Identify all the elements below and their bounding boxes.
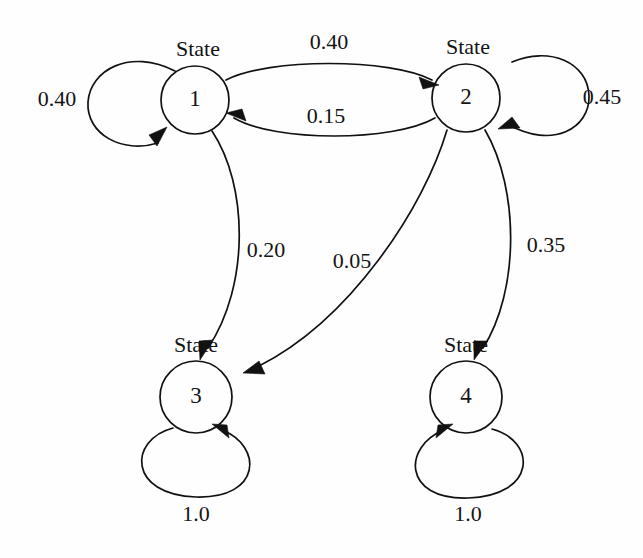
node-state-1[interactable]: State 1	[161, 36, 229, 134]
node-state-4[interactable]: State 4	[430, 332, 502, 433]
edge-weight-2-3: 0.05	[333, 248, 372, 273]
edge-state2-to-state4-path	[483, 130, 511, 348]
edge-self-loop-state-2: 0.45	[498, 56, 621, 136]
node-state-4-caption: State	[444, 332, 488, 357]
node-state-2-caption: State	[446, 34, 490, 59]
edge-state1-to-state3-path	[208, 131, 239, 348]
edge-self-loop-state-3-path	[142, 428, 250, 497]
edge-state1-to-state2-path	[226, 64, 432, 81]
node-state-2[interactable]: State 2	[432, 34, 500, 132]
edge-state1-to-state3: 0.20	[199, 131, 285, 360]
node-state-3-caption: State	[174, 332, 218, 357]
edge-self-loop-state-2-path	[507, 56, 589, 136]
edge-weight-1-1: 0.40	[38, 86, 77, 111]
node-state-3-label: 3	[190, 383, 202, 408]
edge-weight-3-3: 1.0	[182, 501, 210, 526]
state-transition-diagram: 0.40 0.45 0.40 0.15 0.20	[0, 0, 643, 558]
edge-self-loop-state-2-arrowhead	[498, 117, 520, 129]
edge-weight-2-4: 0.35	[527, 232, 566, 257]
edge-self-loop-state-4: 1.0	[415, 424, 523, 526]
node-state-1-label: 1	[189, 86, 201, 111]
edge-weight-4-4: 1.0	[454, 501, 482, 526]
edge-weight-1-2: 0.40	[310, 29, 349, 54]
edge-state2-to-state4: 0.35	[474, 130, 565, 360]
edge-self-loop-state-4-path	[415, 429, 523, 498]
edge-self-loop-state-1: 0.40	[38, 61, 175, 146]
node-state-1-caption: State	[176, 36, 220, 61]
edge-state2-to-state1: 0.15	[226, 103, 435, 136]
edge-weight-1-3: 0.20	[247, 237, 286, 262]
edge-weight-2-2: 0.45	[583, 84, 622, 109]
edge-self-loop-state-1-arrowhead	[149, 127, 167, 146]
edge-self-loop-state-3-arrowhead	[212, 424, 229, 438]
edge-self-loop-state-3: 1.0	[142, 424, 250, 526]
edge-state1-to-state2: 0.40	[226, 29, 439, 89]
edge-weight-2-1: 0.15	[307, 103, 346, 128]
edge-state2-to-state3-arrowhead	[243, 361, 265, 374]
node-state-4-label: 4	[460, 383, 472, 408]
diagram-canvas: 0.40 0.45 0.40 0.15 0.20	[0, 0, 643, 558]
node-state-3[interactable]: State 3	[160, 332, 232, 433]
node-state-2-label: 2	[460, 84, 472, 109]
